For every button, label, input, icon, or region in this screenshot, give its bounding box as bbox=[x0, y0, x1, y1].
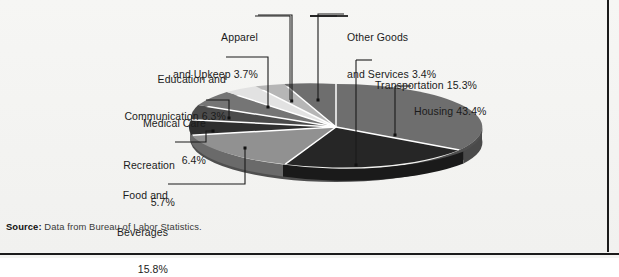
callout-education-line1: Education and bbox=[80, 73, 226, 85]
callout-housing: Housing 43.4% bbox=[414, 80, 574, 142]
callout-food-line1: Food and bbox=[60, 189, 168, 201]
figure-right-rule bbox=[607, 0, 609, 252]
callout-other-goods-line1: Other Goods bbox=[347, 31, 507, 43]
callout-apparel-line1: Apparel bbox=[120, 31, 258, 43]
figure-bottom-rule bbox=[0, 253, 619, 255]
callout-housing-line1: Housing 43.4% bbox=[414, 105, 574, 117]
source-note: Source: Data from Bureau of Labor Statis… bbox=[6, 221, 202, 232]
callout-food-line3: 15.8% bbox=[60, 263, 168, 275]
callout-medical-line1: Medical Care bbox=[86, 117, 206, 129]
source-label: Source: bbox=[6, 221, 42, 232]
source-text: Data from Bureau of Labor Statistics. bbox=[42, 221, 202, 232]
